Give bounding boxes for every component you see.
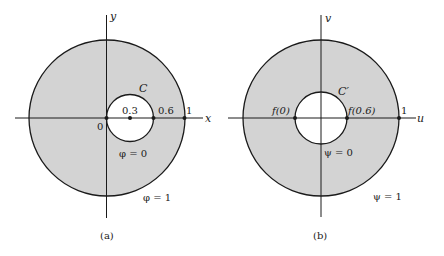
panel-b: v u C′ f(0) f(0.6) 1 ψ = 0 ψ = 1 (b) [228, 12, 424, 241]
caption-a: (a) [100, 230, 114, 241]
point-label-1-b: 1 [401, 105, 407, 116]
point-label-1: 1 [186, 105, 192, 116]
v-axis-label: v [325, 12, 332, 25]
point-1-b [397, 116, 401, 120]
outer-boundary-label-a: φ = 1 [143, 192, 171, 203]
panel-a: y x C 0 0.3 0.6 1 φ = 0 φ = 1 (a) [15, 10, 212, 241]
curve-label-c: C [139, 82, 148, 95]
inner-boundary-label-b: ψ = 0 [324, 147, 353, 158]
caption-b: (b) [313, 230, 327, 241]
outer-boundary-label-b: ψ = 1 [373, 191, 402, 202]
point-label-f0-6: f(0.6) [347, 105, 376, 116]
diagram-canvas: y x C 0 0.3 0.6 1 φ = 0 φ = 1 (a) v u C′… [0, 0, 444, 256]
point-label-0-3: 0.3 [122, 105, 138, 116]
point-1 [183, 116, 187, 120]
x-axis-label: x [205, 112, 212, 125]
point-origin [105, 116, 109, 120]
point-label-f0: f(0) [271, 105, 290, 116]
point-0-6 [152, 116, 156, 120]
point-label-0-6: 0.6 [158, 105, 174, 116]
curve-label-c-prime: C′ [338, 85, 349, 98]
point-0-3 [128, 116, 132, 120]
inner-boundary-label-a: φ = 0 [119, 148, 147, 159]
point-f0 [293, 116, 297, 120]
origin-label: 0 [97, 121, 103, 132]
u-axis-label: u [417, 112, 424, 125]
y-axis-label: y [109, 10, 117, 23]
point-f0-6 [345, 116, 349, 120]
